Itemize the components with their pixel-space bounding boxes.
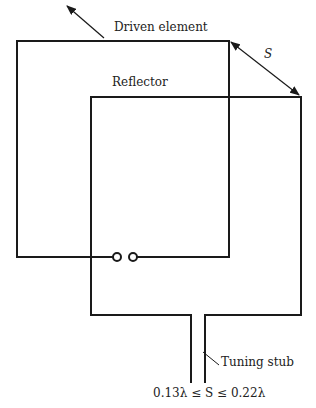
reflector-label: Reflector: [112, 75, 168, 89]
tuning-stub-label: Tuning stub: [221, 355, 294, 369]
spacing-label: S: [264, 47, 272, 61]
driven-element-arrow-icon: [67, 6, 104, 38]
driven-element-label: Driven element: [114, 20, 208, 34]
spacing-formula: 0.13λ ≤ S ≤ 0.22λ: [153, 386, 265, 400]
reflector-loop: [91, 97, 301, 383]
feed-terminal-right-icon: [129, 253, 137, 261]
quad-antenna-diagram: Driven element Reflector S Tuning stub 0…: [0, 0, 316, 408]
feed-terminal-left-icon: [113, 253, 121, 261]
diagram-drawing: [0, 0, 316, 408]
driven-element-loop: [17, 41, 229, 257]
